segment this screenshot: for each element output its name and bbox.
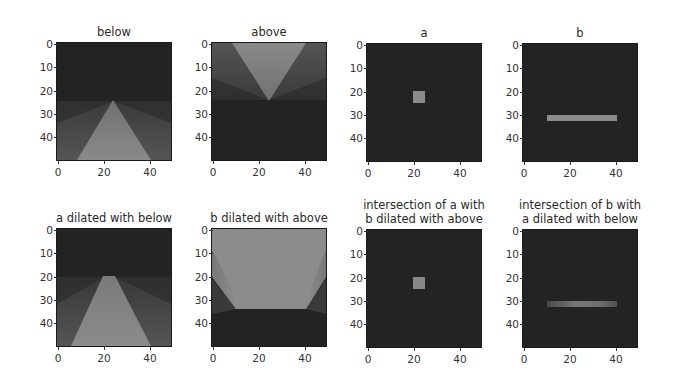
y-tick: 0 [46, 224, 53, 236]
x-tick: 0 [356, 353, 380, 365]
y-tick: 0 [512, 39, 519, 51]
x-tick: 20 [92, 166, 116, 178]
panel-title: below [27, 25, 201, 39]
y-tick: 40 [506, 132, 519, 144]
x-tick: 40 [138, 352, 162, 364]
title-line: intersection of a with [337, 198, 511, 212]
title-line: a dilated with below [493, 212, 667, 226]
y-tick: 30 [506, 295, 519, 307]
heatmap-intersection-b [523, 230, 637, 347]
x-tick: 20 [558, 353, 582, 365]
y-tick: 30 [195, 108, 208, 120]
x-tick: 40 [293, 166, 317, 178]
y-tick: 10 [40, 61, 53, 73]
y-tick: 40 [506, 318, 519, 330]
x-tick: 0 [512, 167, 536, 179]
x-tick: 40 [604, 167, 628, 179]
x-tick: 40 [448, 167, 472, 179]
y-tick: 20 [350, 272, 363, 284]
x-tick: 20 [92, 352, 116, 364]
x-tick: 0 [201, 166, 225, 178]
panel-intersection-b: intersection of b with a dilated with be… [523, 230, 637, 347]
y-tick: 0 [46, 38, 53, 50]
y-tick: 40 [350, 132, 363, 144]
y-tick: 40 [40, 131, 53, 143]
x-tick: 40 [604, 353, 628, 365]
panel-above: above 0 10 20 30 40 0 20 40 [212, 43, 326, 160]
x-tick: 40 [293, 352, 317, 364]
y-tick: 10 [350, 62, 363, 74]
panel-a-dilated-with-below: a dilated with below 0 10 20 30 40 0 20 … [57, 229, 171, 346]
panel-below: below 0 10 20 30 40 0 20 40 [57, 43, 171, 160]
y-tick: 0 [356, 225, 363, 237]
x-tick: 0 [201, 352, 225, 364]
heatmap-b-dilated-with-above [212, 229, 326, 346]
y-tick: 30 [40, 108, 53, 120]
x-tick: 0 [512, 353, 536, 365]
y-tick: 10 [350, 248, 363, 260]
y-tick: 30 [506, 109, 519, 121]
y-tick: 40 [195, 131, 208, 143]
y-tick: 20 [40, 85, 53, 97]
y-tick: 0 [201, 38, 208, 50]
title-line: b dilated with above [337, 212, 511, 226]
x-tick: 20 [402, 353, 426, 365]
y-tick: 20 [40, 271, 53, 283]
heatmap-a [367, 44, 481, 161]
x-tick: 20 [402, 167, 426, 179]
y-tick: 40 [350, 318, 363, 330]
x-tick: 40 [448, 353, 472, 365]
y-tick: 30 [195, 294, 208, 306]
heatmap-above [212, 43, 326, 160]
y-tick: 20 [350, 86, 363, 98]
y-tick: 40 [40, 317, 53, 329]
y-tick: 20 [195, 85, 208, 97]
y-tick: 0 [356, 39, 363, 51]
panel-title: intersection of a with b dilated with ab… [337, 198, 511, 226]
x-tick: 20 [247, 352, 271, 364]
y-tick: 40 [195, 317, 208, 329]
panel-title: a [337, 26, 511, 40]
x-tick: 0 [356, 167, 380, 179]
x-tick: 0 [46, 352, 70, 364]
panel-title: b dilated with above [182, 211, 356, 225]
panel-title: b [493, 26, 667, 40]
heatmap-below [57, 43, 171, 160]
y-tick: 10 [195, 247, 208, 259]
y-tick: 30 [350, 109, 363, 121]
y-tick: 20 [195, 271, 208, 283]
heatmap-a-dilated-with-below [57, 229, 171, 346]
title-line: intersection of b with [493, 198, 667, 212]
y-tick: 0 [201, 224, 208, 236]
y-tick: 10 [40, 247, 53, 259]
y-tick: 10 [506, 62, 519, 74]
x-tick: 0 [46, 166, 70, 178]
x-tick: 40 [138, 166, 162, 178]
panel-a: a 0 10 20 30 40 0 20 40 [367, 44, 481, 161]
y-tick: 10 [506, 248, 519, 260]
x-tick: 20 [558, 167, 582, 179]
x-tick: 20 [247, 166, 271, 178]
panel-b-dilated-with-above: b dilated with above 0 10 20 30 40 0 20 … [212, 229, 326, 346]
panel-title: a dilated with below [27, 211, 201, 225]
y-tick: 10 [195, 61, 208, 73]
heatmap-intersection-a [367, 230, 481, 347]
y-tick: 20 [506, 272, 519, 284]
y-tick: 30 [40, 294, 53, 306]
panel-title: above [182, 25, 356, 39]
panel-b: b 0 10 20 30 40 0 20 40 [523, 44, 637, 161]
panel-title: intersection of b with a dilated with be… [493, 198, 667, 226]
y-tick: 0 [512, 225, 519, 237]
panel-intersection-a: intersection of a with b dilated with ab… [367, 230, 481, 347]
heatmap-b [523, 44, 637, 161]
y-tick: 20 [506, 86, 519, 98]
y-tick: 30 [350, 295, 363, 307]
